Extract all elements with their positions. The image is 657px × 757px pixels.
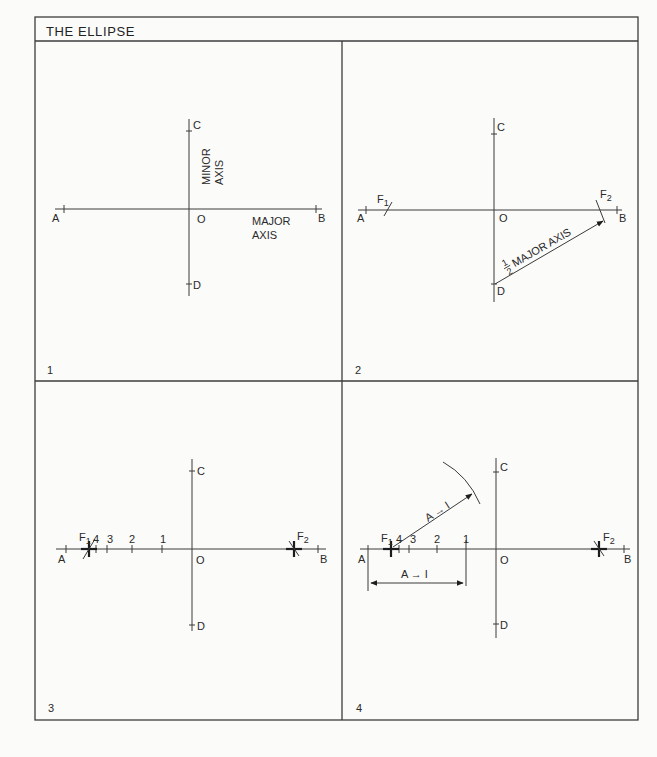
ellipse-construction-sheet: THE ELLIPSE A B C D O MINOR xyxy=(0,0,657,757)
construction-drawing: A B C D O MINOR AXIS MAJOR AXIS 1 A B xyxy=(0,0,657,757)
point-o-label: O xyxy=(197,213,206,225)
point-c-label: C xyxy=(197,465,205,477)
division-label-1: 1 xyxy=(463,533,469,545)
dimension-label: A → I xyxy=(401,568,428,580)
point-a-label: A xyxy=(52,212,60,224)
panel-4: A B C D O F1 F2 4 3 2 1 A → I A → I 4 xyxy=(356,458,631,714)
point-b-label: B xyxy=(624,553,631,565)
focus-2-marker xyxy=(286,541,302,557)
point-d-label: D xyxy=(197,620,205,632)
division-label-3: 3 xyxy=(107,533,113,545)
major-axis-label-1: MAJOR xyxy=(252,215,291,227)
focus-2-label: F2 xyxy=(297,530,309,545)
point-o-label: O xyxy=(500,554,509,566)
panel-number-2: 2 xyxy=(355,364,361,376)
point-d-label: D xyxy=(193,279,201,291)
focus-1-label: F1 xyxy=(381,532,393,547)
point-c-label: C xyxy=(497,121,505,133)
division-label-2: 2 xyxy=(129,533,135,545)
point-a-label: A xyxy=(357,212,365,224)
focus-2-arc-mark xyxy=(596,200,605,223)
point-b-label: B xyxy=(619,212,626,224)
minor-axis-label-2: AXIS xyxy=(213,160,225,185)
division-label-4: 4 xyxy=(396,533,402,545)
svg-text:MAJOR AXIS: MAJOR AXIS xyxy=(510,226,573,269)
focus-2-marker xyxy=(591,541,607,557)
panel-number-1: 1 xyxy=(47,364,53,376)
point-b-label: B xyxy=(320,553,327,565)
panel-3: A B C D O F1 F2 4 3 2 1 3 xyxy=(48,459,327,714)
point-o-label: O xyxy=(499,212,508,224)
focus-2-label: F2 xyxy=(603,531,615,546)
half-major-axis-label: 1 2 MAJOR AXIS xyxy=(499,222,575,277)
division-label-2: 2 xyxy=(434,533,440,545)
point-d-label: D xyxy=(497,285,505,297)
point-c-label: C xyxy=(500,461,508,473)
point-c-label: C xyxy=(193,119,201,131)
minor-axis-label-1: MINOR xyxy=(200,148,212,185)
panel-number-3: 3 xyxy=(48,702,54,714)
point-o-label: O xyxy=(196,554,205,566)
svg-text:2: 2 xyxy=(505,266,514,277)
point-b-label: B xyxy=(318,212,325,224)
point-a-label: A xyxy=(58,553,66,565)
division-label-1: 1 xyxy=(160,533,166,545)
panel-1: A B C D O MINOR AXIS MAJOR AXIS 1 xyxy=(47,119,325,376)
point-a-label: A xyxy=(358,553,366,565)
focus-2-label: F2 xyxy=(600,188,612,203)
division-label-3: 3 xyxy=(410,533,416,545)
focus-1-label: F1 xyxy=(79,531,91,546)
panel-number-4: 4 xyxy=(356,702,362,714)
point-d-label: D xyxy=(500,619,508,631)
division-label-4: 4 xyxy=(93,533,99,545)
radius-label: A → I xyxy=(423,499,452,524)
panel-2: A B C D O F1 F2 1 2 MAJOR AXIS 2 xyxy=(355,118,626,376)
swing-arc xyxy=(443,462,480,504)
major-axis-label-2: AXIS xyxy=(252,229,277,241)
focus-1-label: F1 xyxy=(377,193,389,208)
sheet-frame xyxy=(35,17,638,720)
